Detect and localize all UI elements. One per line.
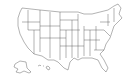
us-states-map (0, 0, 132, 80)
contiguous-us-outline (18, 4, 122, 72)
map-svg (0, 0, 132, 80)
alaska-inset (14, 61, 31, 73)
hawaii-inset (38, 65, 50, 70)
